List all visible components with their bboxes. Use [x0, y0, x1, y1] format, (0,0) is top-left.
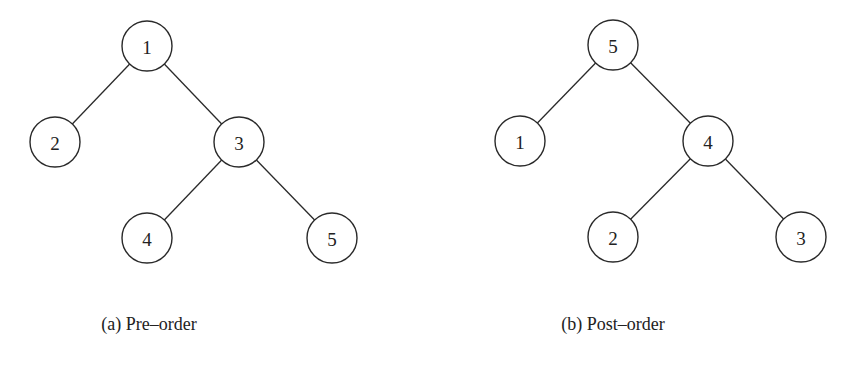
tree-node-1: 1 — [495, 116, 545, 166]
tree-node-4: 4 — [683, 116, 733, 166]
tree-post-order: 51423 — [495, 20, 826, 262]
tree-edge — [256, 160, 314, 220]
tree-node-3: 3 — [214, 117, 264, 167]
tree-node-1: 1 — [122, 21, 172, 71]
tree-node-2: 2 — [588, 212, 638, 262]
tree-edge — [631, 159, 691, 219]
node-label: 4 — [703, 132, 713, 153]
node-label: 1 — [142, 37, 152, 58]
tree-node-4: 4 — [122, 213, 172, 263]
node-label: 3 — [796, 228, 806, 249]
caption-pre-order: (a) Pre–order — [101, 314, 196, 335]
tree-diagram-canvas: 1234551423 — [0, 0, 854, 365]
node-label: 1 — [515, 132, 525, 153]
tree-node-2: 2 — [30, 117, 80, 167]
caption-post-order: (b) Post–order — [561, 314, 664, 335]
tree-edge — [164, 160, 221, 220]
tree-node-5: 5 — [588, 20, 638, 70]
node-label: 5 — [327, 229, 337, 250]
node-label: 5 — [608, 36, 618, 57]
tree-pre-order: 12345 — [30, 21, 357, 263]
tree-node-5: 5 — [307, 213, 357, 263]
tree-edge — [537, 63, 595, 123]
tree-edge — [164, 64, 221, 124]
node-label: 2 — [50, 133, 60, 154]
node-label: 4 — [142, 229, 152, 250]
tree-node-3: 3 — [776, 212, 826, 262]
tree-edge — [631, 63, 691, 123]
tree-edge — [725, 159, 783, 219]
node-label: 3 — [234, 133, 244, 154]
tree-edge — [72, 64, 129, 124]
node-label: 2 — [608, 228, 618, 249]
